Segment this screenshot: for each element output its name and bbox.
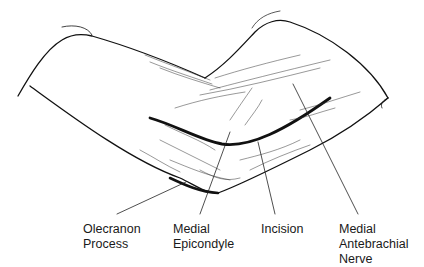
forearm-top-outline [205,20,388,98]
label-medial-epicondyle: Medial Epicondyle [173,222,234,252]
label-incision: Incision [261,222,303,237]
label-olecranon-process: Olecranon Process [83,222,141,252]
leader-olecranon [117,182,186,214]
arm-top-outline [18,35,205,96]
leader-epicondyle [200,132,230,214]
leader-nerve [293,84,358,214]
label-medial-antebrachial-nerve: Medial Antebrachial Nerve [339,222,409,267]
